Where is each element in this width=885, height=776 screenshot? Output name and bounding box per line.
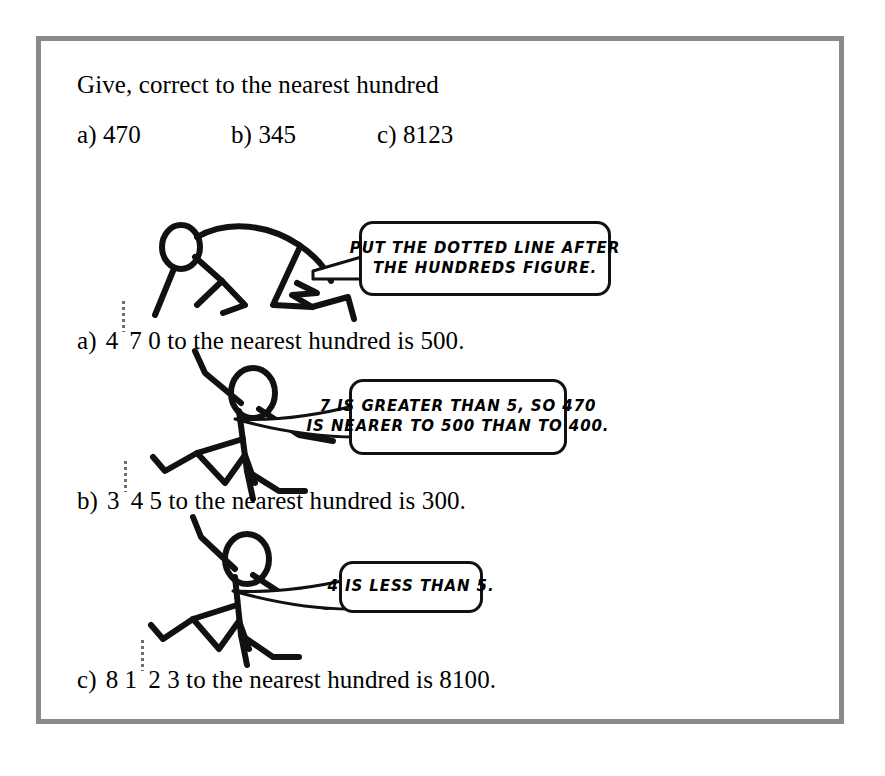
bubble-hundreds-rule-wrap: PUT THE DOTTED LINE AFTER THE HUNDREDS F…	[311, 221, 611, 301]
question-number-c: 8123	[403, 121, 453, 148]
bubble-round-down-wrap: 4 IS LESS THAN 5.	[233, 561, 483, 621]
question-item-c: c) 8123	[377, 121, 453, 149]
question-number-a: 470	[103, 121, 141, 148]
answer-digits-after-a: 7 0	[129, 327, 161, 354]
answer-digits-after-b: 4 5	[131, 487, 163, 514]
bubble-3-line-1: 4 IS LESS THAN 5.	[328, 577, 495, 597]
answer-digits-before-b: 3	[107, 487, 120, 514]
dotted-separator-a	[118, 324, 129, 349]
bubble-round-down: 4 IS LESS THAN 5.	[339, 561, 483, 613]
bubble-1-line-2: THE HUNDREDS FIGURE.	[373, 259, 597, 279]
answer-label-a: a)	[77, 327, 97, 354]
bubble-round-up: 7 IS GREATER THAN 5, SO 470 IS NEARER TO…	[349, 379, 567, 455]
bubble-2-line-1: 7 IS GREATER THAN 5, SO 470	[320, 397, 597, 417]
question-label-c: c)	[377, 121, 397, 148]
answer-digits-before-c: 8 1	[106, 666, 138, 693]
answer-tail-c: to the nearest hundred is 8100.	[186, 666, 496, 693]
bubble-hundreds-rule: PUT THE DOTTED LINE AFTER THE HUNDREDS F…	[359, 221, 611, 296]
worksheet-content: Give, correct to the nearest hundred a) …	[41, 41, 849, 729]
bubble-1-line-1: PUT THE DOTTED LINE AFTER	[350, 239, 620, 259]
answer-row-a: a)47 0 to the nearest hundred is 500.	[77, 324, 465, 355]
answer-label-c: c)	[77, 666, 97, 693]
dotted-separator-c	[137, 663, 148, 688]
answer-digits-before-a: 4	[106, 327, 119, 354]
dotted-separator-b	[120, 484, 131, 509]
answer-row-b: b)34 5 to the nearest hundred is 300.	[77, 484, 466, 515]
bubble-2-line-2: IS NEARER TO 500 THAN TO 400.	[307, 417, 610, 437]
question-number-b: 345	[258, 121, 296, 148]
answer-row-c: c)8 12 3 to the nearest hundred is 8100.	[77, 663, 496, 694]
bubble-round-up-wrap: 7 IS GREATER THAN 5, SO 470 IS NEARER TO…	[237, 379, 567, 461]
worksheet-page-frame: Give, correct to the nearest hundred a) …	[36, 36, 844, 724]
question-item-b: b) 345	[231, 121, 296, 149]
page-title: Give, correct to the nearest hundred	[77, 71, 439, 99]
question-item-a: a) 470	[77, 121, 141, 149]
question-label-b: b)	[231, 121, 252, 148]
answer-digits-after-c: 2 3	[148, 666, 180, 693]
answer-tail-a: to the nearest hundred is 500.	[167, 327, 464, 354]
answer-tail-b: to the nearest hundred is 300.	[169, 487, 466, 514]
answer-label-b: b)	[77, 487, 98, 514]
question-label-a: a)	[77, 121, 97, 148]
